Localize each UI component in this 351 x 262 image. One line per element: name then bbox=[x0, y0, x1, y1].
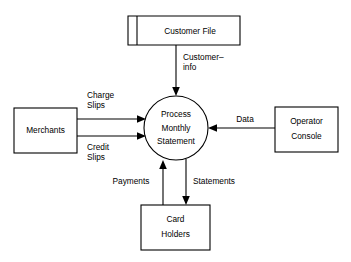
operator-console-label-line1: Operator bbox=[290, 116, 323, 126]
customer-info-label-line1: Customer– bbox=[183, 52, 224, 62]
flow-customer-info: Customer– info bbox=[172, 45, 224, 96]
node-operator-console: Operator Console bbox=[275, 107, 338, 152]
flow-payments: Payments bbox=[113, 160, 167, 205]
statements-arrowhead bbox=[182, 196, 190, 205]
node-merchants: Merchants bbox=[14, 108, 77, 153]
operator-console-box bbox=[275, 107, 338, 152]
process-label-line2: Monthly bbox=[161, 123, 191, 133]
data-label: Data bbox=[236, 114, 254, 124]
flow-statements: Statements bbox=[182, 159, 235, 205]
statements-label: Statements bbox=[193, 176, 235, 186]
diagram-canvas: Customer File Customer– info Process Mon… bbox=[0, 0, 351, 262]
charge-slips-label-line2: Slips bbox=[87, 100, 105, 110]
node-customer-file-datastore: Customer File bbox=[128, 16, 240, 45]
data-flow-diagram: Customer File Customer– info Process Mon… bbox=[0, 0, 351, 262]
card-holders-label-line2: Holders bbox=[161, 229, 190, 239]
data-arrowhead bbox=[208, 124, 217, 132]
customer-info-arrowhead bbox=[172, 87, 180, 96]
flow-data: Data bbox=[208, 114, 275, 132]
charge-slips-label-line1: Charge bbox=[87, 90, 115, 100]
process-label-line3: Statement bbox=[157, 136, 196, 146]
payments-arrowhead bbox=[159, 160, 167, 169]
flow-charge-slips: Charge Slips bbox=[77, 90, 146, 123]
card-holders-label-line1: Card bbox=[167, 214, 185, 224]
node-process-monthly-statement: Process Monthly Statement bbox=[144, 96, 208, 160]
merchants-label: Merchants bbox=[26, 125, 65, 135]
node-card-holders: Card Holders bbox=[141, 205, 210, 250]
customer-file-label: Customer File bbox=[164, 26, 216, 36]
credit-slips-label-line2: Slips bbox=[87, 152, 105, 162]
credit-slips-label-line1: Credit bbox=[87, 142, 110, 152]
flow-credit-slips: Credit Slips bbox=[77, 132, 146, 161]
payments-label: Payments bbox=[113, 176, 150, 186]
card-holders-box bbox=[141, 205, 210, 250]
operator-console-label-line2: Console bbox=[291, 131, 322, 141]
customer-info-label-line2: info bbox=[183, 62, 197, 72]
process-label-line1: Process bbox=[161, 109, 191, 119]
